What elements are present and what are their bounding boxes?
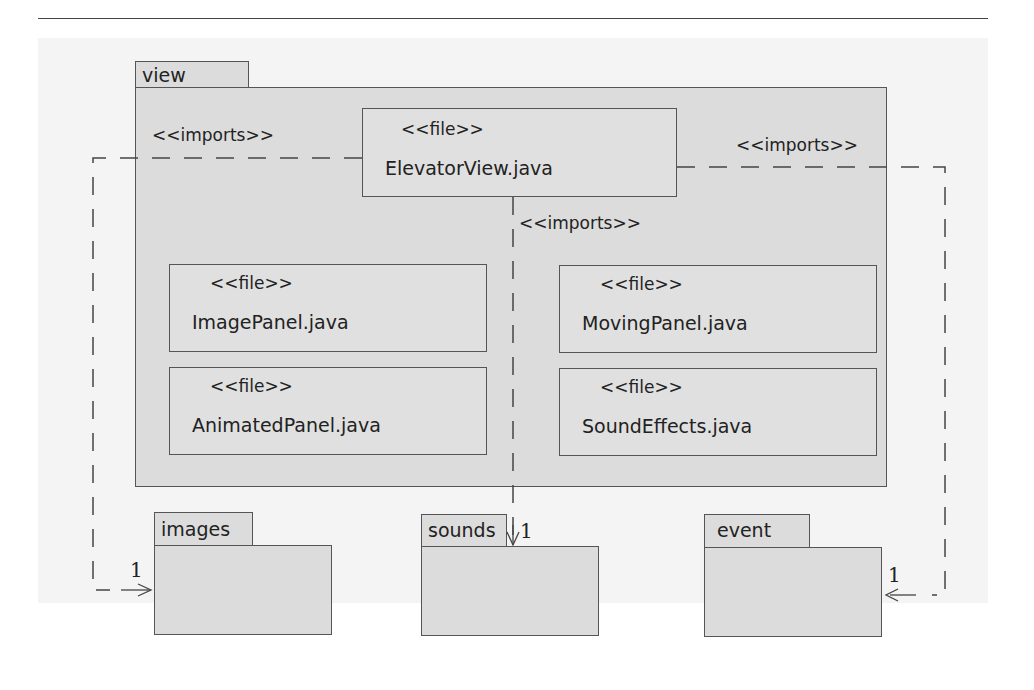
multiplicity-sounds: 1 (520, 519, 533, 543)
dependency-label-sounds: <<imports>> (519, 213, 641, 233)
dependency-line-images (93, 158, 362, 590)
dependency-label-event: <<imports>> (736, 135, 858, 155)
dependency-line-event (677, 167, 945, 595)
multiplicity-images: 1 (130, 558, 143, 582)
multiplicity-event: 1 (888, 563, 901, 587)
dependency-lines (0, 0, 1034, 690)
dependency-label-images: <<imports>> (152, 125, 274, 145)
